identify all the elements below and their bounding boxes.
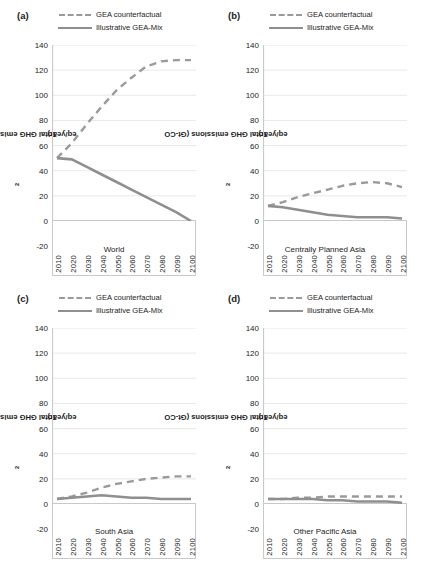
legend-item-gea-mix: Illustrative GEA-Mix — [269, 304, 419, 317]
series-illustrative-gea-mix — [57, 495, 191, 499]
solid-line-icon — [269, 22, 303, 33]
y-tick-label: 120 — [246, 66, 259, 75]
y-tick-label: 40 — [250, 449, 259, 458]
legend-item-gea-mix: Illustrative GEA-Mix — [58, 304, 208, 317]
y-axis-title: Total GHG emissions (Gt-CO2eq/year) — [8, 331, 22, 503]
solid-line-icon — [58, 22, 92, 33]
x-tick-label: 2070 — [143, 255, 152, 273]
x-tick-label: 2080 — [158, 255, 167, 273]
x-tick-label: 2070 — [354, 538, 363, 556]
y-axis-title: Total GHG emissions (Gt-CO2eq/year) — [219, 48, 233, 220]
plot-area: -20020406080100120140 201020202030204020… — [24, 328, 196, 528]
chart-svg — [263, 45, 407, 221]
panel-d: (d) GEA counterfactual Illustrative GEA-… — [211, 283, 422, 565]
x-tick-label: 2060 — [339, 538, 348, 556]
legend-label-gea-mix: Illustrative GEA-Mix — [307, 305, 374, 316]
y-tick-label: 140 — [246, 324, 259, 333]
series-illustrative-gea-mix — [268, 499, 402, 503]
x-tick-label: 2030 — [295, 538, 304, 556]
solid-line-icon — [269, 305, 303, 316]
dashed-line-icon — [58, 292, 92, 303]
x-tick-label: 2100 — [399, 255, 408, 273]
y-tick-label: 100 — [246, 374, 259, 383]
y-tick-label: 120 — [35, 349, 48, 358]
y-tick-label: 100 — [35, 91, 48, 100]
x-tick-label: 2030 — [84, 255, 93, 273]
y-tick-label: 80 — [39, 399, 48, 408]
y-axis-ticks: -20020406080100120140 — [235, 45, 261, 221]
plot-canvas — [263, 45, 407, 221]
x-tick-label: 2070 — [354, 255, 363, 273]
x-tick-label: 2090 — [173, 538, 182, 556]
chart-svg — [263, 328, 407, 504]
y-tick-label: 80 — [250, 399, 259, 408]
x-tick-label: 2080 — [369, 538, 378, 556]
y-axis-title: Total GHG emissions (Gt-CO2eq/year) — [8, 48, 22, 220]
x-tick-label: 2010 — [54, 255, 63, 273]
x-tick-label: 2090 — [384, 255, 393, 273]
y-tick-label: 140 — [35, 41, 48, 50]
series-illustrative-gea-mix — [268, 206, 402, 219]
legend: GEA counterfactual Illustrative GEA-Mix — [58, 8, 208, 34]
legend-label-counterfactual: GEA counterfactual — [307, 9, 372, 20]
y-tick-label: 40 — [39, 166, 48, 175]
x-tick-label: 2100 — [188, 255, 197, 273]
y-tick-label: 20 — [39, 191, 48, 200]
panel-a: (a) GEA counterfactual Illustrative GEA-… — [0, 0, 211, 283]
x-tick-label: 2100 — [188, 538, 197, 556]
x-tick-label: 2050 — [325, 538, 334, 556]
series-gea-counterfactual — [57, 60, 191, 158]
x-tick-label: 2020 — [280, 255, 289, 273]
x-tick-label: 2010 — [265, 538, 274, 556]
panel-region-label: South Asia — [28, 527, 200, 536]
y-tick-label: 20 — [39, 474, 48, 483]
legend-label-counterfactual: GEA counterfactual — [96, 292, 161, 303]
y-tick-label: 0 — [255, 500, 259, 509]
y-tick-label: 40 — [39, 449, 48, 458]
x-tick-label: 2050 — [114, 255, 123, 273]
dashed-line-icon — [269, 292, 303, 303]
legend-item-gea-mix: Illustrative GEA-Mix — [58, 21, 208, 34]
legend-item-counterfactual: GEA counterfactual — [269, 291, 419, 304]
x-tick-label: 2080 — [158, 538, 167, 556]
x-tick-label: 2070 — [143, 538, 152, 556]
x-tick-label: 2020 — [280, 538, 289, 556]
y-tick-label: 20 — [250, 191, 259, 200]
legend-label-counterfactual: GEA counterfactual — [96, 9, 161, 20]
legend-label-gea-mix: Illustrative GEA-Mix — [307, 22, 374, 33]
x-tick-label: 2050 — [114, 538, 123, 556]
dashed-line-icon — [269, 9, 303, 20]
x-tick-label: 2030 — [295, 255, 304, 273]
legend-item-counterfactual: GEA counterfactual — [58, 8, 208, 21]
y-axis-ticks: -20020406080100120140 — [24, 328, 50, 504]
y-tick-label: 60 — [250, 141, 259, 150]
panel-letter: (d) — [228, 293, 240, 304]
series-gea-counterfactual — [268, 182, 402, 206]
y-tick-label: 140 — [246, 41, 259, 50]
legend: GEA counterfactual Illustrative GEA-Mix — [269, 8, 419, 34]
y-tick-label: 80 — [39, 116, 48, 125]
legend-item-counterfactual: GEA counterfactual — [269, 8, 419, 21]
y-tick-label: 40 — [250, 166, 259, 175]
x-tick-label: 2030 — [84, 538, 93, 556]
panel-region-label: Other Pacific Asia — [239, 527, 411, 536]
y-tick-label: 0 — [44, 500, 48, 509]
x-tick-label: 2040 — [310, 538, 319, 556]
y-tick-label: 80 — [250, 116, 259, 125]
y-tick-label: 100 — [35, 374, 48, 383]
y-tick-label: 0 — [255, 217, 259, 226]
x-tick-label: 2090 — [173, 255, 182, 273]
y-tick-label: 140 — [35, 324, 48, 333]
plot-area: -20020406080100120140 201020202030204020… — [235, 328, 407, 528]
dashed-line-icon — [58, 9, 92, 20]
x-tick-label: 2010 — [54, 538, 63, 556]
panel-c: (c) GEA counterfactual Illustrative GEA-… — [0, 283, 211, 565]
panel-region-label: Centrally Planned Asia — [239, 245, 411, 254]
y-tick-label: 120 — [246, 349, 259, 358]
panel-b: (b) GEA counterfactual Illustrative GEA-… — [211, 0, 422, 283]
panel-letter: (a) — [17, 10, 29, 21]
figure-grid: (a) GEA counterfactual Illustrative GEA-… — [0, 0, 422, 565]
legend-label-counterfactual: GEA counterfactual — [307, 292, 372, 303]
plot-canvas — [263, 328, 407, 504]
x-tick-label: 2050 — [325, 255, 334, 273]
